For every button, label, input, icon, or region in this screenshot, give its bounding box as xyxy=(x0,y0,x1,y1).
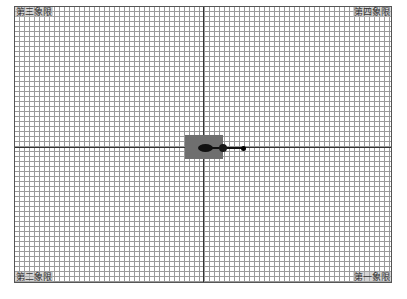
robot-joint-icon[interactable] xyxy=(219,144,227,152)
quadrant-label-top-right: 第四象限 xyxy=(353,7,391,17)
quadrant-label-bottom-right: 第一象限 xyxy=(353,272,391,282)
quadrant-label-top-left: 第三象限 xyxy=(15,7,53,17)
robot-end-effector-icon[interactable] xyxy=(241,146,246,151)
quadrant-label-bottom-left: 第二象限 xyxy=(15,272,53,282)
coordinate-grid-canvas[interactable]: 第三象限 第四象限 第二象限 第一象限 xyxy=(14,6,392,283)
